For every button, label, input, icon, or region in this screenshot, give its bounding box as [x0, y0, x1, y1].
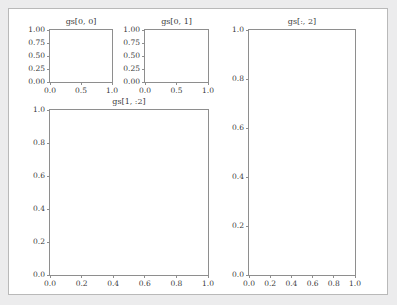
x-tick-label: 0.4: [285, 279, 297, 289]
x-tick-label: 0.0: [139, 86, 151, 96]
y-tick-label: 0.4: [232, 172, 244, 182]
y-tick-label: 1.0: [33, 105, 45, 115]
x-tick-label: 0.0: [44, 86, 56, 96]
y-tick-mark: [142, 30, 145, 31]
y-tick-label: 0.50: [28, 51, 45, 61]
y-tick-mark: [246, 177, 249, 178]
y-tick-label: 0.2: [232, 221, 244, 231]
y-tick-label: 0.6: [33, 171, 45, 181]
y-tick-label: 0.00: [28, 77, 45, 87]
y-tick-label: 1.00: [28, 25, 45, 35]
y-tick-label: 0.25: [28, 64, 45, 74]
x-tick-mark: [333, 275, 334, 278]
x-tick-label: 0.8: [170, 279, 182, 289]
x-tick-label: 1.0: [106, 86, 118, 96]
y-tick-mark: [47, 143, 50, 144]
x-tick-label: 0.8: [328, 279, 340, 289]
x-tick-mark: [81, 275, 82, 278]
axes-gs-1-span: gs[1, :2] 0.00.20.40.60.81.0 0.00.20.40.…: [49, 109, 209, 276]
x-tick-label: 1.0: [349, 279, 361, 289]
x-tick-mark: [112, 82, 113, 85]
y-tick-label: 0.25: [123, 64, 140, 74]
y-tick-mark: [246, 226, 249, 227]
y-tick-mark: [47, 209, 50, 210]
x-tick-mark: [208, 82, 209, 85]
x-tick-label: 0.5: [171, 86, 183, 96]
y-tick-mark: [47, 110, 50, 111]
y-tick-mark: [142, 43, 145, 44]
y-tick-label: 1.0: [232, 25, 244, 35]
axes-title-gs-0-0: gs[0, 0]: [50, 16, 112, 27]
y-tick-label: 0.8: [33, 138, 45, 148]
x-tick-label: 0.6: [307, 279, 319, 289]
y-tick-mark: [142, 69, 145, 70]
x-tick-label: 0.0: [44, 279, 56, 289]
x-tick-mark: [270, 275, 271, 278]
y-tick-label: 0.4: [33, 204, 45, 214]
y-tick-label: 0.00: [123, 77, 140, 87]
axes-gs-0-0: gs[0, 0] 0.000.250.500.751.00 0.00.51.0: [49, 29, 113, 83]
x-tick-mark: [113, 275, 114, 278]
y-tick-label: 0.8: [232, 74, 244, 84]
y-tick-label: 0.2: [33, 237, 45, 247]
x-tick-mark: [50, 82, 51, 85]
axes-title-gs-1-span: gs[1, :2]: [50, 96, 208, 107]
axes-gs-col2: gs[:, 2] 0.00.20.40.60.81.0 0.00.20.40.6…: [248, 29, 356, 276]
y-tick-mark: [142, 56, 145, 57]
x-tick-mark: [249, 275, 250, 278]
y-tick-mark: [47, 30, 50, 31]
x-tick-label: 0.6: [139, 279, 151, 289]
x-tick-mark: [144, 275, 145, 278]
axes-title-gs-col2: gs[:, 2]: [249, 16, 355, 27]
x-tick-label: 1.0: [202, 279, 214, 289]
y-tick-mark: [47, 43, 50, 44]
x-tick-label: 0.2: [264, 279, 276, 289]
y-tick-mark: [47, 56, 50, 57]
y-tick-label: 0.50: [123, 51, 140, 61]
x-tick-label: 0.0: [243, 279, 255, 289]
y-tick-label: 0.75: [28, 38, 45, 48]
x-tick-label: 1.0: [202, 86, 214, 96]
y-tick-mark: [246, 128, 249, 129]
y-tick-mark: [47, 176, 50, 177]
x-tick-label: 0.5: [75, 86, 87, 96]
x-tick-label: 0.2: [76, 279, 88, 289]
figure-canvas: gs[0, 0] 0.000.250.500.751.00 0.00.51.0 …: [8, 8, 388, 295]
x-tick-mark: [208, 275, 209, 278]
x-tick-mark: [81, 82, 82, 85]
x-tick-mark: [312, 275, 313, 278]
x-tick-mark: [176, 275, 177, 278]
x-tick-mark: [176, 82, 177, 85]
x-tick-mark: [355, 275, 356, 278]
axes-title-gs-0-1: gs[0, 1]: [145, 16, 208, 27]
axes-gs-0-1: gs[0, 1] 0.000.250.500.751.00 0.00.51.0: [144, 29, 209, 83]
x-tick-mark: [291, 275, 292, 278]
x-tick-mark: [145, 82, 146, 85]
x-tick-mark: [50, 275, 51, 278]
y-tick-mark: [246, 30, 249, 31]
y-tick-label: 0.6: [232, 123, 244, 133]
y-tick-mark: [47, 242, 50, 243]
y-tick-label: 1.00: [123, 25, 140, 35]
y-tick-mark: [47, 69, 50, 70]
x-tick-label: 0.4: [107, 279, 119, 289]
y-tick-mark: [246, 79, 249, 80]
y-tick-label: 0.75: [123, 38, 140, 48]
